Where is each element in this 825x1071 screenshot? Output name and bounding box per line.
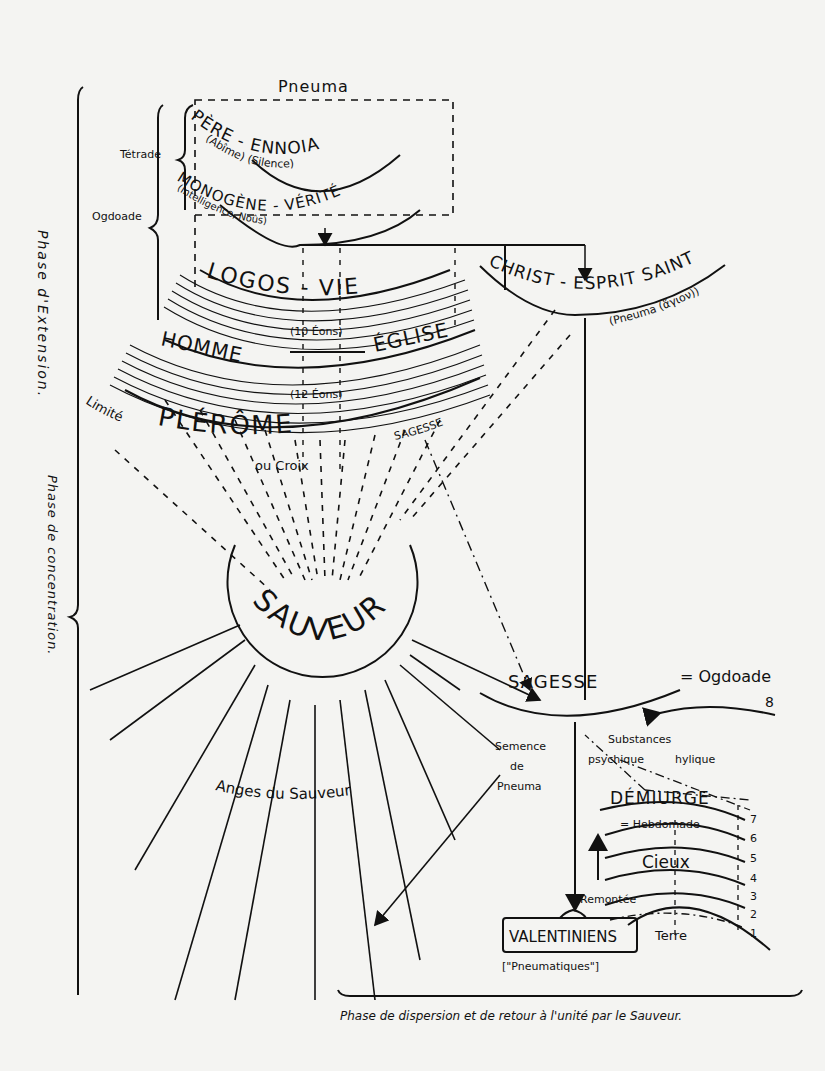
valentiniens-label: VALENTINIENS [509,928,617,946]
svg-text:1: 1 [750,927,757,940]
sagesse-small-label: SAGESSE [393,416,445,443]
de-label: de [510,760,524,773]
eight-label: 8 [765,694,774,710]
pneuma-label: Pneuma [278,77,349,96]
bottom-caption: Phase de dispersion et de retour à l'uni… [340,1009,682,1023]
phase-extension-label: Phase d'Extension. [35,230,51,398]
ou-croix-label: ou Croix [255,458,309,473]
limite-label: Limité [83,393,125,425]
terre-label: Terre [654,928,687,943]
ogdoade-label: Ogdoade [92,210,142,223]
demiurge-label: DÉMIURGE [610,787,710,808]
hylique-label: hylique [675,753,716,766]
valentinian-cosmology-diagram: Pneuma Tétrade Ogdoade PÈRE - ENNOIA (Ab… [0,0,825,1071]
svg-text:6: 6 [750,832,757,845]
svg-text:2: 2 [750,908,757,921]
monogene-verite-label: MONOGÈNE - VÉRITÉ [174,168,344,215]
psychique-label: psychique [588,753,644,766]
hebdomade-label: = Hebdomade [620,818,700,831]
equals-ogdoade-label: = Ogdoade [680,667,771,686]
pneuma-semence-label: Pneuma [497,780,542,793]
twelve-eons-label: (12 Éons) [290,388,342,401]
svg-text:7: 7 [750,813,757,826]
sagesse-label: SAGESSE [508,671,598,692]
homme-label: HOMME [159,326,245,367]
heaven-levels: 7 6 5 4 3 2 1 [750,813,757,940]
christ-esprit-saint-label: CHRIST - ESPRIT SAINT [486,247,697,293]
cieux-label: Cieux [642,852,690,872]
tetrade-label: Tétrade [119,148,161,161]
phase-brace [70,87,83,995]
phase-concentration-label: Phase de concentration. [45,475,60,656]
pneumatiques-label: ["Pneumatiques"] [502,960,599,973]
pere-ennoia-label: PÈRE - ENNOIA [188,105,322,158]
svg-text:3: 3 [750,890,757,903]
semence-label: Semence [495,740,546,753]
remontee-label: Remontée [580,893,636,906]
ten-eons-label: (10 Éons) [290,325,342,338]
logos-vie-label: LOGOS - VIE [204,258,360,301]
substances-label: Substances [608,733,672,746]
svg-text:4: 4 [750,872,757,885]
pneuma-hagion-label: (Pneuma (ἅγιον)) [608,285,702,328]
sauveur-label: SAUVEUR [246,582,393,648]
svg-text:5: 5 [750,852,757,865]
